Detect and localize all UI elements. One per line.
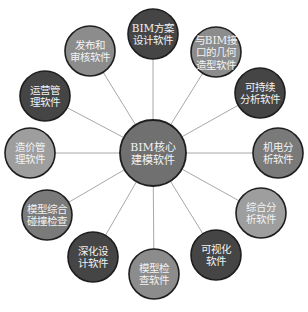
node-label-line: 口的几何: [196, 46, 237, 58]
node-cost-management: 造价管理软件: [5, 128, 55, 178]
node-sustainability-analysis: 可持续分析软件: [235, 68, 285, 118]
node-label-line: BIM方案: [132, 22, 176, 34]
node-comprehensive-analysis: 综合分析软件: [236, 188, 286, 238]
node-label-line: 析软件: [263, 153, 293, 165]
node-publish-review: 发布和审核软件: [65, 26, 115, 76]
node-label-line: 可视化: [201, 243, 232, 255]
node-label-line: 造型软件: [196, 59, 236, 71]
node-label-line: 机电分: [263, 141, 294, 153]
node-label-line: 深化设: [78, 245, 109, 257]
node-geometry-modeling: 与BIM接口的几何造型软件: [191, 27, 241, 77]
node-label-line: 析软件: [246, 213, 276, 225]
node-label-line: 发布和: [75, 39, 105, 51]
node-label-line: 计软件: [78, 257, 108, 269]
node-clash-detection: 模型综合碰撞检查: [22, 190, 72, 240]
node-label-line: 运营管: [30, 84, 60, 96]
node-visualization: 可视化软件: [191, 230, 241, 280]
node-label-line: 模型综合: [27, 203, 68, 215]
node-label-line: 理软件: [15, 153, 45, 165]
node-detailed-design: 深化设计软件: [68, 232, 118, 282]
node-label-line: 软件: [206, 255, 226, 267]
node-label-line: 分析软件: [240, 93, 280, 105]
node-label-line: 建模软件: [131, 153, 175, 167]
node-model-checking: 模型检查软件: [129, 249, 179, 299]
node-label-line: 碰撞检查: [27, 215, 68, 227]
node-label-line: 审核软件: [70, 51, 110, 63]
node-label-line: 造价管: [15, 141, 45, 153]
node-label-line: 查软件: [139, 274, 169, 286]
node-mep-analysis: 机电分析软件: [253, 128, 303, 178]
node-label-line: 设计软件: [133, 34, 173, 46]
node-operations-management: 运营管理软件: [20, 71, 70, 121]
bim-software-diagram: BIM方案设计软件与BIM接口的几何造型软件可持续分析软件机电分析软件综合分析软…: [0, 0, 308, 312]
node-label-line: 综合分: [246, 201, 277, 213]
node-label-line: BIM核心: [130, 140, 176, 154]
node-label-line: 与BIM接: [195, 34, 239, 46]
node-label-line: 理软件: [30, 96, 60, 108]
node-label-line: 模型检: [139, 262, 170, 274]
hub-node: BIM核心建模软件: [120, 120, 186, 186]
node-bim-scheme-design: BIM方案设计软件: [128, 9, 178, 59]
node-label-line: 可持续: [245, 81, 276, 93]
